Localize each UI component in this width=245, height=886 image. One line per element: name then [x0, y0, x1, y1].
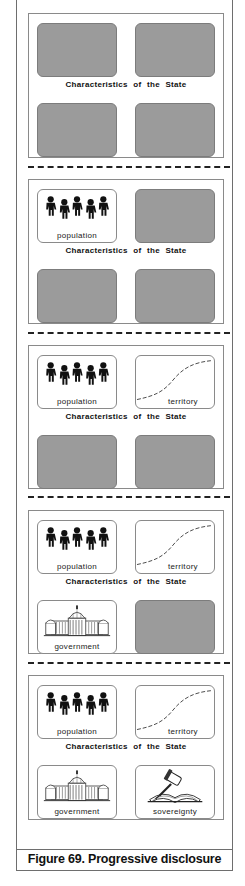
cell-label: territory [144, 562, 222, 571]
people-icon [38, 686, 116, 726]
panel-title: Characteristics of the State [29, 412, 223, 421]
capitol-building-icon [38, 766, 116, 806]
cell-label: population [38, 231, 116, 240]
blank-cell [37, 23, 117, 77]
disclosure-step-2: population Characteristics of the State [28, 179, 224, 324]
people-icon [38, 356, 116, 396]
cell-label: population [38, 727, 116, 736]
cell-label: territory [144, 727, 222, 736]
panel-title: Characteristics of the State [29, 80, 223, 89]
disclosure-step-1: Characteristics of the State [28, 13, 224, 158]
panel-title: Characteristics of the State [29, 742, 223, 751]
sovereignty-cell: sovereignty [135, 765, 215, 819]
blank-cell [135, 23, 215, 77]
blank-cell [135, 269, 215, 323]
blank-cell [135, 189, 215, 243]
blank-cell [37, 435, 117, 489]
population-cell: population [37, 189, 117, 243]
dashed-divider [28, 332, 230, 334]
population-cell: population [37, 355, 117, 409]
government-cell: government [37, 600, 117, 654]
government-cell: government [37, 765, 117, 819]
cell-label: sovereignty [136, 807, 214, 816]
population-cell: population [37, 520, 117, 574]
caption-separator [16, 849, 233, 850]
disclosure-step-3: population territory Characteristics of … [28, 345, 224, 489]
blank-cell [135, 435, 215, 489]
disclosure-step-5: population territory Characteristics of … [28, 675, 224, 820]
dashed-divider [28, 496, 230, 498]
figure-caption: Figure 69. Progressive disclosure [16, 852, 233, 866]
population-cell: population [37, 685, 117, 739]
capitol-building-icon [38, 601, 116, 641]
cell-label: government [38, 807, 116, 816]
dashed-divider [28, 166, 230, 168]
blank-cell [37, 103, 117, 157]
cell-label: population [38, 397, 116, 406]
panel-title: Characteristics of the State [29, 577, 223, 586]
people-icon [38, 190, 116, 230]
gavel-book-icon [136, 766, 214, 806]
cell-label: population [38, 562, 116, 571]
panel-title: Characteristics of the State [29, 246, 223, 255]
blank-cell [37, 269, 117, 323]
dashed-divider [28, 662, 230, 664]
cell-label: government [38, 642, 116, 651]
territory-cell: territory [135, 685, 215, 739]
territory-cell: territory [135, 520, 215, 574]
blank-cell [135, 103, 215, 157]
cell-label: territory [144, 397, 222, 406]
disclosure-step-4: population territory Characteristics of … [28, 510, 224, 654]
people-icon [38, 521, 116, 561]
blank-cell [135, 600, 215, 654]
territory-cell: territory [135, 355, 215, 409]
